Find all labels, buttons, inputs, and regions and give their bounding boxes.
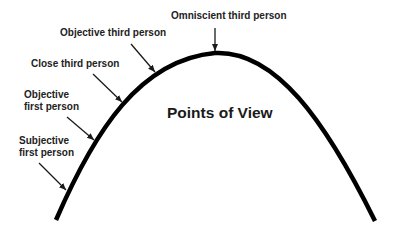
label-objective-third-person: Objective third person (60, 27, 166, 39)
label-text-line1: Subjective (19, 135, 74, 147)
label-text-line2: first person (24, 101, 79, 113)
arrow-close-third (93, 74, 122, 102)
arrow-subjective-first (39, 163, 66, 190)
label-close-third-person: Close third person (31, 58, 119, 70)
label-text-line2: first person (19, 147, 74, 159)
point-of-view-arch-curve (56, 53, 375, 221)
label-omniscient-third-person: Omniscient third person (171, 10, 287, 22)
label-subjective-first-person: Subjective first person (19, 135, 74, 159)
diagram-title: Points of View (167, 104, 273, 122)
label-text: Objective third person (60, 27, 166, 38)
arrow-objective-third (131, 44, 155, 72)
label-text: Close third person (31, 58, 119, 69)
label-text-line1: Objective (24, 89, 79, 101)
label-text: Omniscient third person (171, 10, 287, 21)
label-objective-first-person: Objective first person (24, 89, 79, 113)
